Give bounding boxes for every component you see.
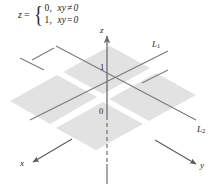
formula-equals: = bbox=[24, 10, 30, 20]
case2-rhs: 0 bbox=[74, 15, 79, 25]
l2-subscript: 2 bbox=[202, 127, 205, 134]
case2-value: 1, bbox=[45, 15, 52, 25]
x-axis-label: x bbox=[20, 158, 24, 168]
case2-expr: xy bbox=[57, 15, 66, 25]
case1-rhs: 0 bbox=[73, 3, 78, 13]
case1-condition: xy≠0 bbox=[57, 3, 78, 13]
case2-operator: = bbox=[67, 15, 72, 25]
case2-condition: xy=0 bbox=[57, 15, 78, 25]
formula-case-1: 0, xy≠0 bbox=[45, 4, 79, 14]
formula-cases: 0, xy≠0 1, xy=0 bbox=[45, 4, 79, 25]
x-axis bbox=[33, 139, 72, 162]
y-axis bbox=[155, 140, 196, 164]
case1-value: 0, bbox=[45, 3, 52, 13]
case1-expr: xy bbox=[57, 3, 66, 13]
formula-case-2: 1, xy=0 bbox=[45, 16, 79, 26]
formula-brace: { bbox=[34, 6, 43, 24]
graph-svg bbox=[0, 0, 224, 191]
y-axis-label: y bbox=[200, 160, 204, 170]
origin-label: 0 bbox=[99, 106, 103, 116]
piecewise-formula: z = { 0, xy≠0 1, xy=0 bbox=[18, 4, 78, 25]
case1-operator: ≠ bbox=[67, 3, 72, 13]
z-tick-label-one: 1 bbox=[100, 62, 104, 72]
line-l2-label: L2 bbox=[197, 124, 205, 134]
line-l1-label: L1 bbox=[152, 39, 160, 49]
l1-subscript: 1 bbox=[157, 42, 160, 49]
formula-lhs: z bbox=[18, 10, 22, 20]
z-axis-label: z bbox=[100, 25, 104, 35]
